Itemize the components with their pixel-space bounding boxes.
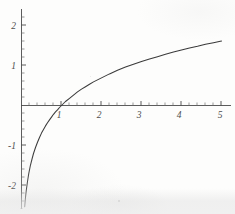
x-axis-tick-labels: 1 2 3 4 5	[57, 110, 223, 120]
y-axis-minor-ticks	[22, 17, 25, 201]
axes-group	[21, 9, 231, 209]
y-tick-label-neg2: -2	[8, 181, 16, 191]
x-tick-label-1: 1	[57, 110, 62, 120]
figure-canvas: 1 2 3 4 5 -2 -1 1 2	[0, 0, 235, 214]
x-tick-label-4: 4	[177, 110, 182, 120]
x-tick-label-3: 3	[136, 110, 142, 120]
x-tick-label-5: 5	[218, 110, 223, 120]
y-axis-tick-labels: -2 -1 1 2	[8, 21, 16, 191]
y-tick-label-neg1: -1	[8, 141, 16, 151]
x-tick-label-2: 2	[97, 110, 102, 120]
line-chart: 1 2 3 4 5 -2 -1 1 2	[0, 0, 235, 214]
data-curve-ln-x	[25, 41, 222, 207]
y-tick-label-1: 1	[11, 61, 16, 71]
y-tick-label-2: 2	[11, 21, 16, 31]
